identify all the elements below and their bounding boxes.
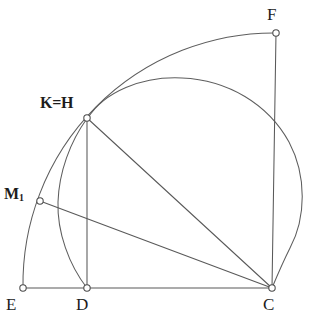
vertex-marker-M1 [37,198,43,204]
vertex-marker-D [84,285,90,291]
segment-M1-C [40,201,272,288]
vertex-marker-KH [84,115,90,121]
geometry-figure: E D C F K=H M1 [0,0,313,327]
figure-canvas [0,0,313,327]
segment-KH-C [87,118,272,288]
arc-circle-KH-D-C [88,78,303,288]
arc-KH-D [58,119,87,289]
vertex-marker-F [273,30,279,36]
point-label-KH: K=H [40,95,73,111]
segment-F-C [272,33,276,288]
arc-group [23,33,302,288]
point-label-M1: M1 [4,186,24,203]
point-label-M1-subscript: 1 [19,192,24,203]
vertex-marker-group [20,30,279,291]
point-label-D: D [76,296,88,313]
vertex-marker-E [20,285,26,291]
point-label-M1-base: M [4,185,19,202]
vertex-marker-C [269,285,275,291]
point-label-F: F [267,6,276,23]
point-label-C: C [263,296,274,313]
segment-group [23,33,276,288]
point-label-E: E [6,296,16,313]
arc-E-M1-KH-F [23,33,276,288]
